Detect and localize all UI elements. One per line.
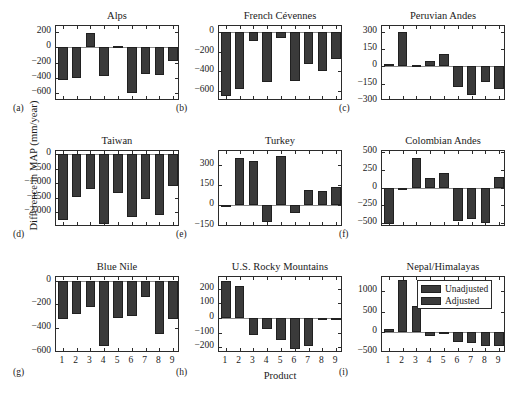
- bar: [168, 47, 178, 60]
- bar: [318, 318, 328, 320]
- x-tickmark: [309, 151, 310, 154]
- x-tickmark: [132, 151, 133, 154]
- x-tickmark: [444, 26, 445, 29]
- y-tick-label: 300: [363, 26, 377, 36]
- x-tickmark: [173, 26, 174, 29]
- figure-x-axis-label: Product: [218, 370, 342, 381]
- x-tickmark: [309, 348, 310, 351]
- x-tickmark: [132, 96, 133, 99]
- x-tickmark: [322, 277, 323, 280]
- bar: [155, 47, 165, 74]
- x-tick-label: 5: [274, 355, 286, 365]
- plot-area-d: [55, 150, 179, 226]
- y-tickmark: [382, 49, 385, 50]
- x-tickmark: [322, 26, 323, 29]
- panel-letter-d: (d): [13, 229, 24, 239]
- bar: [249, 161, 259, 205]
- x-tickmark: [90, 222, 91, 225]
- bar: [318, 191, 328, 205]
- x-tickmark: [104, 348, 105, 351]
- x-tickmark: [403, 151, 404, 154]
- y-tickmark: [338, 205, 341, 206]
- bar: [221, 32, 231, 96]
- bar: [384, 329, 394, 331]
- y-tickmark: [338, 303, 341, 304]
- x-tickmark: [430, 348, 431, 351]
- x-tick-label: 1: [219, 355, 231, 365]
- x-tickmark: [499, 277, 500, 280]
- x-tickmark: [240, 277, 241, 280]
- x-tickmark: [253, 277, 254, 280]
- x-tickmark: [173, 151, 174, 154]
- x-tickmark: [295, 151, 296, 154]
- x-tickmark: [253, 348, 254, 351]
- x-tickmark: [104, 96, 105, 99]
- y-tickmark: [338, 91, 341, 92]
- x-tick-label: 7: [302, 355, 314, 365]
- x-tickmark: [403, 348, 404, 351]
- x-tickmark: [267, 151, 268, 154]
- panel-letter-g: (g): [13, 367, 24, 377]
- x-tickmark: [309, 96, 310, 99]
- y-tickmark: [382, 312, 385, 313]
- x-tick-label: 3: [409, 355, 421, 365]
- panel-letter-a: (a): [13, 103, 24, 113]
- bar: [276, 32, 286, 38]
- y-tickmark: [382, 170, 385, 171]
- x-tickmark: [159, 26, 160, 29]
- x-tickmark: [416, 151, 417, 154]
- x-tickmark: [146, 96, 147, 99]
- x-tick-label: 6: [125, 355, 137, 365]
- bar: [99, 154, 109, 224]
- bar: [304, 318, 314, 347]
- x-tickmark: [159, 277, 160, 280]
- x-tickmark: [240, 222, 241, 225]
- x-tickmark: [77, 222, 78, 225]
- y-tick-label: −100: [194, 327, 214, 337]
- x-tickmark: [430, 96, 431, 99]
- figure-multipanel-bar-chart: Difference in MAP (mm/year) Alps2000−200…: [0, 0, 518, 408]
- x-tickmark: [132, 222, 133, 225]
- y-tickmark: [501, 312, 504, 313]
- y-tick-label: −1500: [27, 192, 51, 202]
- x-tick-label: 8: [152, 355, 164, 365]
- x-tickmark: [336, 277, 337, 280]
- x-tickmark: [146, 26, 147, 29]
- panel-title-b: French Cévennes: [218, 10, 342, 21]
- y-tickmark: [56, 93, 59, 94]
- bar: [249, 318, 259, 335]
- x-tick-label: 4: [423, 355, 435, 365]
- x-tickmark: [403, 26, 404, 29]
- legend: UnadjustedAdjusted: [417, 280, 492, 309]
- zero-line: [219, 205, 341, 206]
- bar: [72, 281, 82, 315]
- panel-letter-h: (h): [176, 367, 187, 377]
- x-tickmark: [159, 151, 160, 154]
- bar: [168, 281, 178, 320]
- x-tickmark: [118, 151, 119, 154]
- x-tickmark: [403, 96, 404, 99]
- x-tick-label: 8: [315, 355, 327, 365]
- x-tickmark: [458, 222, 459, 225]
- y-tick-label: −2,000: [24, 207, 51, 217]
- x-tickmark: [499, 26, 500, 29]
- bar: [262, 205, 272, 221]
- y-tick-label: 200: [37, 26, 51, 36]
- x-tickmark: [499, 151, 500, 154]
- x-tickmark: [444, 348, 445, 351]
- x-tickmark: [104, 151, 105, 154]
- x-tickmark: [159, 348, 160, 351]
- x-tickmark: [77, 277, 78, 280]
- bar: [453, 66, 463, 87]
- x-tickmark: [267, 96, 268, 99]
- x-tickmark: [132, 277, 133, 280]
- x-tickmark: [472, 96, 473, 99]
- x-tickmark: [295, 277, 296, 280]
- x-tickmark: [485, 96, 486, 99]
- legend-label: Adjusted: [445, 296, 479, 306]
- bar: [481, 66, 491, 82]
- x-tick-label: 9: [329, 355, 341, 365]
- x-tickmark: [253, 96, 254, 99]
- x-tick-label: 9: [166, 355, 178, 365]
- y-tick-label: −200: [31, 299, 51, 309]
